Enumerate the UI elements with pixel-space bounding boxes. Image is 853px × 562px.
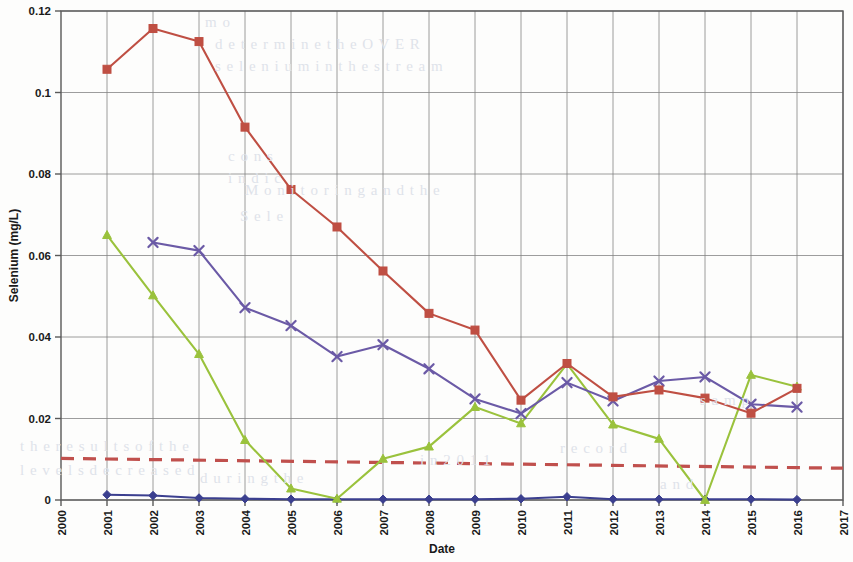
y-axis-tick-label: 0.12: [29, 5, 51, 17]
series-red: [103, 25, 801, 418]
x-axis-tick-label: 2005: [286, 509, 298, 535]
series-red-line: [107, 29, 797, 414]
y-axis-tick-label: 0: [45, 494, 51, 506]
series-blue-line: [107, 495, 797, 500]
x-axis-tick-label: 2012: [608, 510, 620, 536]
data-point-marker: [701, 394, 709, 402]
x-axis-tick-label: 2017: [838, 510, 850, 536]
x-axis-tick-label: 2007: [378, 510, 390, 536]
data-point-marker: [609, 495, 617, 503]
y-axis-title: Selenium (mg/L): [7, 209, 21, 302]
y-axis-ticks: 00.020.040.060.080.10.12: [29, 5, 61, 506]
data-point-marker: [517, 495, 525, 503]
data-point-marker: [425, 309, 433, 317]
trend-line: [61, 458, 843, 468]
data-point-marker: [793, 495, 801, 503]
y-axis-tick-label: 0.06: [29, 250, 51, 262]
x-axis-tick-label: 2009: [470, 510, 482, 536]
x-axis-title: Date: [429, 542, 455, 556]
data-point-marker: [747, 409, 755, 417]
data-point-marker: [471, 402, 480, 410]
data-point-marker: [103, 231, 112, 239]
selenium-line-chart: 00.020.040.060.080.10.12 200020012002200…: [0, 0, 853, 562]
data-point-marker: [103, 491, 111, 499]
x-axis-tick-label: 2015: [746, 509, 758, 535]
series-green-line: [107, 235, 797, 500]
data-point-marker: [563, 359, 571, 367]
x-axis-tick-label: 2003: [194, 510, 206, 536]
data-point-marker: [609, 393, 617, 401]
y-axis-tick-label: 0.02: [29, 413, 51, 425]
series-green: [103, 231, 802, 504]
data-point-marker: [747, 495, 755, 503]
data-point-marker: [149, 25, 157, 33]
data-point-marker: [333, 223, 341, 231]
data-point-marker: [103, 65, 111, 73]
data-point-marker: [287, 185, 295, 193]
data-point-marker: [655, 495, 663, 503]
data-point-marker: [241, 495, 249, 503]
x-axis-tick-label: 2013: [654, 510, 666, 536]
data-point-marker: [471, 495, 479, 503]
data-point-marker: [149, 491, 157, 499]
y-axis-tick-label: 0.08: [29, 168, 52, 180]
x-axis-ticks: 2000200120022003200420052006200720082009…: [56, 500, 850, 536]
x-axis-tick-label: 2014: [700, 509, 712, 535]
data-point-marker: [793, 384, 801, 392]
x-axis-tick-label: 2004: [240, 509, 252, 535]
data-point-marker: [471, 326, 479, 334]
data-point-marker: [195, 38, 203, 46]
x-axis-tick-label: 2000: [56, 510, 68, 536]
y-axis-tick-label: 0.04: [29, 331, 52, 343]
x-axis-tick-label: 2001: [102, 509, 114, 535]
y-axis-tick-label: 0.1: [35, 87, 52, 99]
data-point-marker: [241, 123, 249, 131]
chart-page: 00.020.040.060.080.10.12 200020012002200…: [0, 0, 853, 562]
data-point-marker: [287, 495, 295, 503]
axis-titles: Selenium (mg/L)Date: [7, 209, 455, 556]
data-point-marker: [425, 495, 433, 503]
data-point-marker: [379, 495, 387, 503]
x-axis-tick-label: 2010: [516, 510, 528, 536]
series-blue: [103, 491, 801, 504]
data-series: [103, 25, 802, 504]
data-point-marker: [379, 267, 387, 275]
x-axis-tick-label: 2011: [562, 509, 574, 535]
data-point-marker: [747, 370, 756, 378]
x-axis-tick-label: 2016: [792, 510, 804, 536]
data-point-marker: [241, 435, 250, 443]
data-point-marker: [517, 396, 525, 404]
x-axis-tick-label: 2006: [332, 510, 344, 536]
data-point-marker: [655, 386, 663, 394]
data-point-marker: [195, 494, 203, 502]
trend-line-dashed: [61, 458, 843, 468]
x-axis-tick-label: 2002: [148, 510, 160, 536]
x-axis-tick-label: 2008: [424, 509, 436, 535]
